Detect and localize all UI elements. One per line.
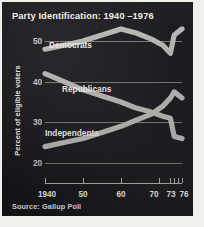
x-tick-label-1973: 73 bbox=[166, 190, 175, 199]
y-tick-label-20: 20 bbox=[33, 158, 42, 167]
series-label-independents: Independents bbox=[45, 128, 99, 138]
x-tick-1940 bbox=[45, 178, 46, 183]
y-axis-label: Percent of eligible voters bbox=[13, 59, 22, 163]
x-tick-label-1976: 76 bbox=[179, 190, 188, 199]
x-tick-1974 bbox=[174, 178, 175, 183]
source-caption: Source: Gallup Poll bbox=[12, 202, 81, 211]
x-tick-1970 bbox=[159, 178, 160, 183]
series-lines bbox=[45, 33, 182, 179]
x-tick-label-1960: 60 bbox=[116, 190, 125, 199]
y-tick-label-30: 30 bbox=[33, 118, 42, 127]
series-label-republicans: Republicans bbox=[62, 84, 111, 94]
chart-title: Party Identification: 1940 –1976 bbox=[12, 11, 154, 21]
x-tick-1976 bbox=[182, 178, 183, 183]
plot-area: 50 40 30 20 Democrats Republicans Indepe… bbox=[45, 33, 182, 179]
x-tick-1950 bbox=[83, 178, 84, 183]
x-tick-1975 bbox=[178, 178, 179, 183]
x-axis-line bbox=[45, 183, 182, 184]
x-tick-label-1950: 50 bbox=[78, 190, 87, 199]
x-tick-label-1970: 70 bbox=[149, 190, 158, 199]
x-tick-1973 bbox=[170, 178, 171, 183]
chart-page: Party Identification: 1940 –1976 Percent… bbox=[0, 0, 204, 227]
chart-figure: Party Identification: 1940 –1976 Percent… bbox=[2, 2, 193, 216]
series-label-democrats: Democrats bbox=[49, 40, 92, 50]
y-tick-label-40: 40 bbox=[33, 77, 42, 86]
x-tick-label-1940: 1940 bbox=[38, 190, 56, 199]
x-tick-1960 bbox=[121, 178, 122, 183]
y-tick-label-50: 50 bbox=[33, 37, 42, 46]
